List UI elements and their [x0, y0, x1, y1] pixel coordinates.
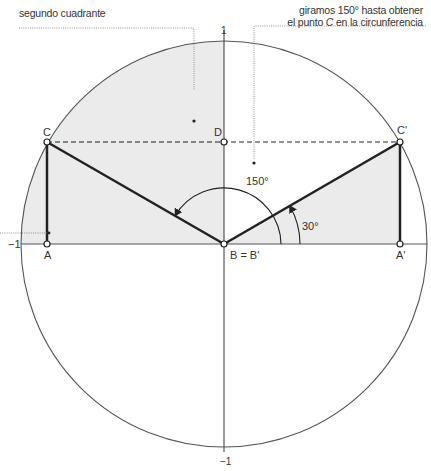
- annotation-rotation-pre: el punto: [287, 16, 325, 28]
- point-c: [44, 139, 50, 145]
- annotation-rotation-line1: giramos 150° hasta obtener: [287, 4, 423, 16]
- leader-dot-left: [192, 119, 195, 122]
- point-d: [221, 139, 227, 145]
- point-a: [44, 241, 50, 247]
- label-b: B = B': [230, 249, 259, 261]
- leader-dot-right: [252, 161, 255, 164]
- unit-circle-diagram: C D C' A B = B' A' 150° 30° 1 −1 −1: [0, 0, 431, 471]
- label-d: D: [214, 126, 222, 138]
- point-cprime: [397, 139, 403, 145]
- annotation-rotation-line2: el punto C en la circunferencia: [287, 16, 423, 28]
- axis-label-top: 1: [221, 25, 227, 36]
- label-a: A: [44, 249, 52, 261]
- point-b: [221, 241, 227, 247]
- label-c: C: [43, 126, 51, 138]
- label-cprime: C': [397, 124, 407, 136]
- angle-label-30: 30°: [302, 220, 319, 232]
- annotation-rotation: giramos 150° hasta obtener el punto C en…: [287, 4, 423, 28]
- annotation-second-quadrant: segundo cuadrante: [19, 7, 106, 19]
- annotation-rotation-post: en la circunferencia: [333, 16, 423, 28]
- label-aprime: A': [396, 249, 405, 261]
- leader-dot-a: [48, 232, 51, 235]
- axis-label-bottom: −1: [220, 456, 232, 467]
- axis-label-left: −1: [8, 238, 21, 250]
- point-aprime: [397, 241, 403, 247]
- angle-label-150: 150°: [246, 175, 269, 187]
